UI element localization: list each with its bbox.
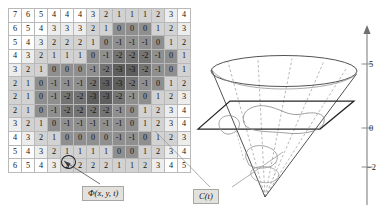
grid-cell[interactable]: 3 xyxy=(178,22,191,36)
grid-cell[interactable]: -1 xyxy=(126,90,139,104)
grid-cell[interactable]: 2 xyxy=(139,159,152,173)
grid-cell[interactable]: -3 xyxy=(87,90,100,104)
grid-cell[interactable]: 4 xyxy=(48,9,61,23)
grid-cell[interactable]: 1 xyxy=(35,118,48,132)
grid-cell[interactable]: -1 xyxy=(100,118,113,132)
grid-cell[interactable]: 3 xyxy=(22,49,35,63)
grid-cell[interactable]: -1 xyxy=(152,49,165,63)
grid-cell[interactable]: -1 xyxy=(61,118,74,132)
grid-cell[interactable]: 1 xyxy=(113,9,126,23)
grid-cell[interactable]: 0 xyxy=(74,63,87,77)
grid-cell[interactable]: 1 xyxy=(152,90,165,104)
grid-cell[interactable]: 1 xyxy=(165,77,178,91)
grid-cell[interactable]: 0 xyxy=(74,131,87,145)
grid-cell[interactable]: 0 xyxy=(100,131,113,145)
grid-cell[interactable]: 0 xyxy=(126,104,139,118)
grid-cell[interactable]: 3 xyxy=(48,22,61,36)
grid-cell[interactable]: 1 xyxy=(35,63,48,77)
grid-cell[interactable]: 2 xyxy=(61,159,74,173)
grid-cell[interactable]: 2 xyxy=(61,36,74,50)
grid-cell[interactable]: 1 xyxy=(22,77,35,91)
grid-cell[interactable]: -1 xyxy=(113,36,126,50)
grid-cell[interactable]: 0 xyxy=(139,90,152,104)
grid-cell[interactable]: 1 xyxy=(48,131,61,145)
grid-cell[interactable]: 1 xyxy=(48,49,61,63)
grid-cell[interactable]: 1 xyxy=(178,63,191,77)
grid-cell[interactable]: -1 xyxy=(139,36,152,50)
grid-cell[interactable]: -2 xyxy=(113,49,126,63)
grid-cell[interactable]: -1 xyxy=(126,131,139,145)
grid-cell[interactable]: 1 xyxy=(165,36,178,50)
grid-cell[interactable]: 2 xyxy=(9,104,22,118)
grid-cell[interactable]: 1 xyxy=(152,131,165,145)
grid-cell[interactable]: 3 xyxy=(9,118,22,132)
grid-cell[interactable]: 1 xyxy=(139,118,152,132)
grid-cell-highlighted[interactable]: 2 xyxy=(48,145,61,159)
grid-cell[interactable]: 1 xyxy=(126,9,139,23)
grid-cell[interactable]: -2 xyxy=(139,49,152,63)
grid-cell[interactable]: -3 xyxy=(100,77,113,91)
grid-cell[interactable]: 3 xyxy=(152,159,165,173)
grid-cell[interactable]: -1 xyxy=(48,104,61,118)
grid-cell[interactable]: 3 xyxy=(22,131,35,145)
grid-cell[interactable]: 3 xyxy=(48,159,61,173)
grid-cell[interactable]: 6 xyxy=(9,159,22,173)
grid-cell[interactable]: 0 xyxy=(61,131,74,145)
grid-cell[interactable]: -3 xyxy=(126,63,139,77)
grid-cell[interactable]: 4 xyxy=(178,145,191,159)
grid-cell[interactable]: 3 xyxy=(165,104,178,118)
grid-cell[interactable]: 4 xyxy=(178,9,191,23)
grid-cell[interactable]: 1 xyxy=(139,145,152,159)
grid-cell[interactable]: 0 xyxy=(113,22,126,36)
grid-cell[interactable]: 2 xyxy=(9,77,22,91)
grid-cell[interactable]: 0 xyxy=(152,36,165,50)
grid-cell[interactable]: 6 xyxy=(9,22,22,36)
grid-cell[interactable]: 0 xyxy=(165,49,178,63)
grid-cell[interactable]: 2 xyxy=(74,159,87,173)
grid-cell[interactable]: -1 xyxy=(87,63,100,77)
grid-cell[interactable]: 7 xyxy=(9,9,22,23)
grid-cell[interactable]: 4 xyxy=(165,159,178,173)
grid-cell[interactable]: 0 xyxy=(139,131,152,145)
grid-cell[interactable]: 1 xyxy=(22,104,35,118)
grid-cell[interactable]: 0 xyxy=(87,131,100,145)
grid-cell[interactable]: -2 xyxy=(87,104,100,118)
grid-cell[interactable]: 3 xyxy=(165,118,178,132)
grid-cell[interactable]: 0 xyxy=(61,63,74,77)
grid-cell[interactable]: 0 xyxy=(126,145,139,159)
grid-cell[interactable]: -1 xyxy=(113,131,126,145)
grid-cell[interactable]: 4 xyxy=(22,145,35,159)
grid-cell[interactable]: 3 xyxy=(87,9,100,23)
grid-cell[interactable]: 4 xyxy=(9,131,22,145)
grid-cell[interactable]: 3 xyxy=(35,36,48,50)
grid-cell[interactable]: 0 xyxy=(152,77,165,91)
grid-cell[interactable]: 0 xyxy=(165,63,178,77)
grid-cell[interactable]: 3 xyxy=(165,9,178,23)
grid-cell[interactable]: 1 xyxy=(87,36,100,50)
grid-cell[interactable]: 0 xyxy=(48,63,61,77)
grid-cell[interactable]: 1 xyxy=(74,145,87,159)
grid-cell[interactable]: -2 xyxy=(126,49,139,63)
grid-cell[interactable]: 4 xyxy=(9,49,22,63)
grid-cell[interactable]: 2 xyxy=(152,118,165,132)
grid-cell[interactable]: 1 xyxy=(22,90,35,104)
grid-cell[interactable]: 0 xyxy=(113,145,126,159)
grid-cell[interactable]: 2 xyxy=(74,36,87,50)
grid-cell[interactable]: 1 xyxy=(178,49,191,63)
grid-cell[interactable]: -2 xyxy=(87,77,100,91)
grid-cell[interactable]: 4 xyxy=(178,118,191,132)
grid-cell[interactable]: 2 xyxy=(100,159,113,173)
grid-cell[interactable]: 3 xyxy=(178,90,191,104)
grid-cell[interactable]: -1 xyxy=(87,118,100,132)
grid-cell[interactable]: 4 xyxy=(35,22,48,36)
grid-cell[interactable]: -1 xyxy=(74,118,87,132)
grid-cell[interactable]: -1 xyxy=(113,104,126,118)
grid-cell[interactable]: 4 xyxy=(22,36,35,50)
grid-cell[interactable]: 3 xyxy=(61,22,74,36)
grid-cell[interactable]: 2 xyxy=(48,36,61,50)
grid-cell[interactable]: 2 xyxy=(152,9,165,23)
grid-cell[interactable]: 2 xyxy=(22,63,35,77)
grid-cell[interactable]: 5 xyxy=(178,159,191,173)
grid-cell[interactable]: 1 xyxy=(139,9,152,23)
grid-cell[interactable]: 1 xyxy=(100,145,113,159)
